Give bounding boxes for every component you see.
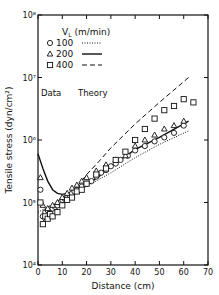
legend-header: VL (m/min) (62, 27, 110, 38)
square-marker (162, 108, 167, 113)
square-marker (181, 97, 186, 102)
y-axis-label: Tensile stress (dyn/cm²) (4, 87, 14, 195)
y-tick-label: 10⁷ (23, 74, 36, 83)
triangle-marker (132, 143, 138, 148)
chart: 01020304050607010⁴10⁵10⁶10⁷10⁸Distance (… (0, 0, 219, 295)
circle-marker (152, 139, 157, 144)
legend-data-label: Data (41, 88, 61, 98)
x-tick-label: 40 (130, 268, 140, 277)
square-marker (123, 149, 128, 154)
x-axis-label: Distance (cm) (92, 281, 155, 291)
square-marker (79, 187, 84, 192)
circle-marker (47, 40, 52, 45)
plot-area (38, 78, 196, 227)
square-marker (113, 157, 118, 162)
square-marker (84, 181, 89, 186)
square-marker (47, 62, 52, 67)
x-tick-label: 0 (35, 268, 40, 277)
square-marker (133, 137, 138, 142)
legend: VL (m/min)100200400DataTheory (41, 27, 110, 98)
square-marker (55, 210, 60, 215)
y-tick-label: 10⁸ (23, 11, 36, 20)
triangle-marker (171, 123, 177, 128)
legend-value: 100 (56, 38, 73, 48)
triangle-marker (161, 126, 167, 131)
square-marker (191, 100, 196, 105)
circle-marker (162, 135, 167, 140)
y-tick-label: 10⁶ (23, 136, 36, 145)
legend-theory-label: Theory (77, 88, 108, 98)
x-tick-label: 30 (106, 268, 116, 277)
triangle-marker (152, 132, 158, 137)
legend-value: 200 (56, 49, 73, 59)
x-tick-label: 50 (154, 268, 164, 277)
x-tick-label: 20 (81, 268, 91, 277)
square-marker (40, 222, 45, 227)
circle-marker (133, 148, 138, 153)
x-tick-label: 70 (203, 268, 213, 277)
triangle-marker (47, 51, 53, 56)
circle-marker (171, 130, 176, 135)
square-marker (171, 103, 176, 108)
square-marker (94, 172, 99, 177)
square-marker (103, 166, 108, 171)
square-marker (38, 200, 43, 205)
square-marker (69, 195, 74, 200)
square-marker (142, 126, 147, 131)
circle-marker (142, 143, 147, 148)
square-marker (152, 116, 157, 121)
legend-value: 400 (56, 60, 73, 70)
square-marker (60, 203, 65, 208)
circle-marker (38, 187, 43, 192)
y-tick-label: 10⁵ (23, 199, 36, 208)
x-tick-label: 60 (179, 268, 189, 277)
x-tick-label: 10 (57, 268, 67, 277)
y-tick-label: 10⁴ (23, 261, 36, 270)
triangle-marker (181, 118, 187, 123)
triangle-marker (142, 137, 148, 142)
circle-marker (181, 123, 186, 128)
